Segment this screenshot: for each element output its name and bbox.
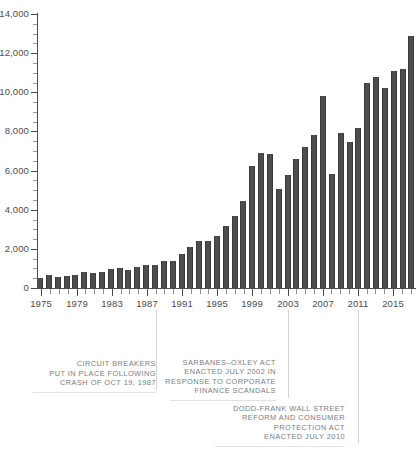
x-axis-tick: [191, 289, 192, 294]
x-axis-tick: [349, 289, 350, 294]
x-axis-tick: [138, 289, 139, 294]
x-axis-label: 1987: [136, 298, 158, 309]
bar: [329, 174, 335, 288]
bar: [240, 201, 246, 288]
y-axis-minor-tick: [33, 239, 37, 240]
annotation-underline: [33, 392, 156, 393]
x-axis-tick: [112, 289, 113, 296]
annotation-leader-line: [358, 310, 359, 443]
x-axis-tick: [103, 289, 104, 294]
x-axis-tick: [279, 289, 280, 294]
bar: [214, 236, 220, 288]
bar: [170, 261, 176, 288]
y-axis-label: 10,000: [0, 86, 29, 97]
bar: [249, 166, 255, 288]
annotation-line: CRASH OF OCT 19, 1987: [49, 378, 156, 388]
x-axis-tick: [314, 289, 315, 294]
bar: [196, 241, 202, 288]
y-axis-minor-tick: [33, 220, 37, 221]
y-axis-minor-tick: [33, 73, 37, 74]
y-axis-tick: [31, 14, 37, 15]
x-axis-tick: [384, 289, 385, 294]
x-axis-tick: [296, 289, 297, 294]
bar: [232, 216, 238, 288]
x-axis-tick: [367, 289, 368, 294]
x-axis-label: 1995: [206, 298, 228, 309]
x-axis-tick: [411, 289, 412, 294]
annotation-line: FINANCE SCANDALS: [165, 386, 276, 396]
x-axis-tick: [340, 289, 341, 294]
bar: [134, 267, 140, 288]
y-axis-tick: [31, 249, 37, 250]
x-axis-tick: [59, 289, 60, 294]
annotation-leader-line: [288, 310, 289, 398]
x-axis-tick: [261, 289, 262, 294]
x-axis-tick: [375, 289, 376, 294]
x-axis-label: 1979: [66, 298, 88, 309]
x-axis-tick: [85, 289, 86, 294]
y-axis-minor-tick: [33, 151, 37, 152]
bar: [125, 270, 131, 288]
y-axis-minor-tick: [33, 200, 37, 201]
x-axis-tick: [331, 289, 332, 294]
bar: [285, 175, 291, 288]
bar: [223, 226, 229, 288]
y-axis-minor-tick: [33, 229, 37, 230]
annotation-line: CIRCUIT BREAKERS: [49, 359, 156, 369]
bar: [161, 261, 167, 288]
x-axis-tick: [208, 289, 209, 294]
bar: [400, 69, 406, 288]
y-axis-tick: [31, 131, 37, 132]
x-axis-tick: [226, 289, 227, 294]
bar: [347, 142, 353, 288]
bar: [205, 241, 211, 288]
y-axis-tick: [31, 171, 37, 172]
bar: [391, 71, 397, 288]
annotation-line: ENACTED JULY 2010: [233, 432, 345, 442]
y-axis-minor-tick: [33, 278, 37, 279]
bar: [81, 272, 87, 288]
bar: [152, 265, 158, 288]
annotation-line: PROTECTION ACT: [233, 423, 345, 433]
bar: [276, 189, 282, 288]
bar: [364, 83, 370, 289]
bar: [320, 96, 326, 288]
y-axis-label: 8,000: [0, 125, 29, 136]
y-axis-minor-tick: [33, 259, 37, 260]
bar: [143, 265, 149, 288]
bar: [267, 154, 273, 288]
annotation-line: DODD-FRANK WALL STREET: [233, 404, 345, 414]
y-axis-label: 4,000: [0, 204, 29, 215]
x-axis-tick: [129, 289, 130, 294]
annotation-line: RESPONSE TO CORPORATE: [165, 377, 276, 387]
x-axis-tick: [244, 289, 245, 294]
x-axis-tick: [94, 289, 95, 294]
y-axis-tick: [31, 53, 37, 54]
bar: [382, 88, 388, 288]
bar: [72, 275, 78, 288]
bar: [187, 247, 193, 288]
bars-layer: [37, 14, 415, 288]
annotation-underline: [170, 400, 276, 401]
x-axis-tick: [252, 289, 253, 296]
y-axis-minor-tick: [33, 43, 37, 44]
bar: [293, 159, 299, 288]
x-axis-tick: [305, 289, 306, 294]
x-axis-tick: [323, 289, 324, 296]
bar: [373, 77, 379, 288]
bar: [311, 135, 317, 288]
y-axis-minor-tick: [33, 141, 37, 142]
annotation-line: SARBANES–OXLEY ACT: [165, 358, 276, 368]
y-axis-minor-tick: [33, 161, 37, 162]
y-axis-minor-tick: [33, 180, 37, 181]
annotation-line: PUT IN PLACE FOLLOWING: [49, 369, 156, 379]
x-axis-tick: [270, 289, 271, 294]
y-axis-minor-tick: [33, 24, 37, 25]
x-axis-tick: [235, 289, 236, 294]
bar: [99, 272, 105, 288]
bar-chart: 02,0004,0006,0008,00010,00012,00014,000 …: [0, 0, 417, 456]
y-axis-line: [37, 13, 38, 289]
y-axis-minor-tick: [33, 63, 37, 64]
bar: [258, 153, 264, 288]
x-axis-tick: [358, 289, 359, 296]
